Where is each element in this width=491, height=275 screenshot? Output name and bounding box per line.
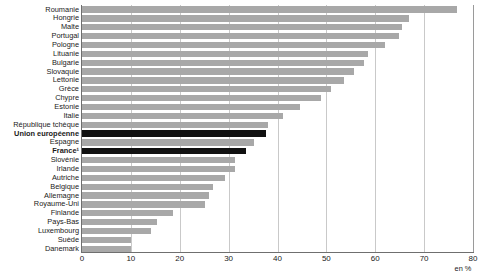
bar (82, 33, 399, 39)
bar (82, 228, 151, 234)
x-tick-label-0: 0 (62, 254, 102, 263)
x-axis-ticks: 01020304050607080 (0, 254, 491, 266)
bar (82, 192, 209, 198)
bar (82, 113, 283, 119)
x-tick-label-40: 40 (258, 254, 298, 263)
x-axis-unit-label: en % (441, 264, 485, 273)
x-tick-label-60: 60 (355, 254, 395, 263)
bar-label-danemark: Danemark (0, 244, 79, 254)
bar (82, 201, 205, 207)
x-tick-label-70: 70 (404, 254, 444, 263)
bar (82, 104, 300, 110)
bar (82, 15, 409, 21)
bar (82, 175, 225, 181)
bar (82, 210, 173, 216)
bar (82, 122, 268, 128)
bar (82, 42, 385, 48)
bar (82, 24, 402, 30)
bar-rows: RoumanieHongrieMaltePortugalPologneLitua… (0, 5, 491, 253)
bar (82, 184, 213, 190)
bar (82, 148, 246, 154)
bar (82, 219, 157, 225)
x-tick-label-30: 30 (209, 254, 249, 263)
bar-row: Danemark (0, 244, 491, 254)
bar (82, 51, 368, 57)
bar-chart: RoumanieHongrieMaltePortugalPologneLitua… (0, 0, 491, 275)
bar (82, 60, 364, 66)
bar (82, 139, 254, 145)
bar (82, 86, 331, 92)
x-tick-label-20: 20 (160, 254, 200, 263)
bar (82, 246, 131, 252)
bar (82, 77, 344, 83)
bar (82, 130, 266, 136)
bar (82, 166, 235, 172)
bar (82, 6, 457, 12)
bar (82, 157, 235, 163)
bar (82, 237, 131, 243)
x-tick-label-50: 50 (306, 254, 346, 263)
bar (82, 68, 354, 74)
x-tick-label-80: 80 (453, 254, 491, 263)
bar (82, 95, 321, 101)
x-tick-label-10: 10 (111, 254, 151, 263)
